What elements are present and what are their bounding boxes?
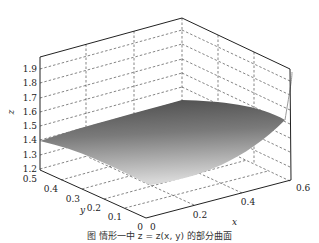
figure-caption: 图 情形一中 z = z(x, y) 的部分曲面	[0, 229, 319, 242]
svg-text:1.7: 1.7	[23, 93, 38, 103]
svg-text:0.1: 0.1	[108, 212, 122, 222]
svg-text:1.5: 1.5	[23, 121, 38, 131]
svg-text:0.5: 0.5	[23, 174, 38, 184]
y-axis-ticks: 0.5 0.4 0.3 0.2 0.1 0	[23, 174, 144, 232]
svg-text:1.9: 1.9	[23, 64, 38, 74]
z-axis-ticks: 1.9 1.8 1.7 1.6 1.5 1.4 1.3 1.2	[23, 64, 38, 174]
surface-plot: 1.9 1.8 1.7 1.6 1.5 1.4 1.3 1.2 z 0.5 0.…	[0, 0, 319, 243]
svg-text:0.2: 0.2	[87, 203, 101, 213]
svg-text:0.4: 0.4	[241, 197, 256, 207]
x-axis-ticks: 0 0.2 0.4 0.6	[150, 183, 311, 232]
svg-text:0.6: 0.6	[296, 183, 311, 193]
svg-text:1.8: 1.8	[23, 78, 38, 88]
z-axis-label: z	[6, 109, 16, 115]
svg-text:1.2: 1.2	[23, 164, 37, 174]
svg-text:0.2: 0.2	[193, 210, 207, 220]
svg-text:1.3: 1.3	[23, 150, 38, 160]
svg-text:0.3: 0.3	[66, 194, 81, 204]
x-axis-label: x	[232, 217, 237, 227]
svg-text:1.4: 1.4	[23, 135, 38, 145]
svg-text:1.6: 1.6	[23, 107, 38, 117]
svg-text:0.4: 0.4	[44, 184, 59, 194]
y-axis-label: y	[79, 205, 86, 215]
